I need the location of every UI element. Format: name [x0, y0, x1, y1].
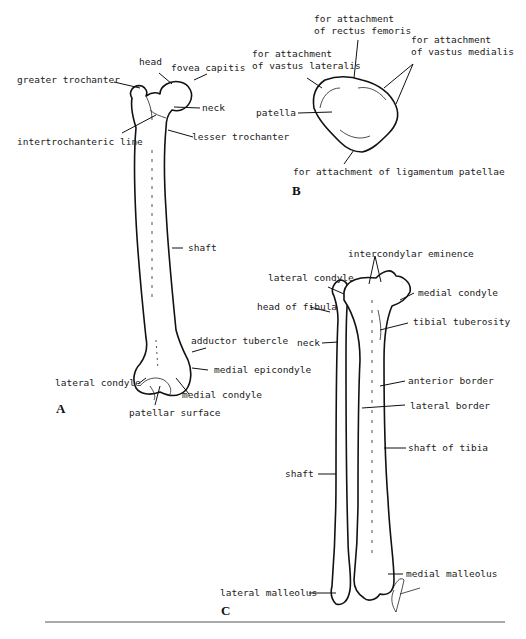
label-femur-lateral-condyle: lateral condyle	[55, 377, 141, 389]
label-attachment-vastus-lateralis: for attachment of vastus lateralis	[252, 48, 361, 72]
label-femur-shaft: shaft	[188, 242, 217, 254]
label-fibula-neck: neck	[297, 337, 320, 349]
label-lesser-trochanter: lesser trochanter	[192, 131, 289, 143]
femur-drawing	[131, 82, 192, 400]
label-attachment-rectus-femoris: for attachment of rectus femoris	[314, 13, 411, 37]
label-neck: neck	[202, 102, 225, 114]
label-tibia-lateral-condyle: lateral condyle	[268, 272, 354, 284]
label-head-of-fibula: head of fibula	[257, 301, 337, 313]
label-fibula-shaft: shaft	[285, 468, 314, 480]
label-intercondylar-eminence: intercondylar eminence	[348, 248, 474, 260]
label-tibial-tuberosity: tibial tuberosity	[413, 316, 510, 328]
panel-label-b: B	[292, 183, 301, 199]
label-adductor-tubercle: adductor tubercle	[191, 335, 288, 347]
label-anterior-border: anterior border	[408, 375, 494, 387]
label-medial-epicondyle: medial epicondyle	[214, 364, 311, 376]
label-attachment-vastus-medialis: for attachment of vastus medialis	[411, 34, 514, 58]
anatomy-figure: head fovea capitis greater trochanter ne…	[0, 0, 526, 639]
label-lateral-malleolus: lateral malleolus	[220, 587, 317, 599]
label-tibia-medial-condyle: medial condyle	[418, 287, 498, 299]
label-fovea-capitis: fovea capitis	[171, 62, 245, 74]
label-medial-malleolus: medial malleolus	[406, 568, 498, 580]
label-greater-trochanter: greater trochanter	[17, 74, 120, 86]
tibia-fibula-drawing	[331, 271, 410, 605]
label-shaft-of-tibia: shaft of tibia	[408, 442, 488, 454]
label-head: head	[139, 56, 162, 68]
patella-drawing	[313, 77, 397, 152]
label-attachment-ligamentum-patellae: for attachment of ligamentum patellae	[293, 166, 505, 178]
label-patella: patella	[256, 107, 296, 119]
label-femur-medial-condyle: medial condyle	[182, 389, 262, 401]
artist-signature	[392, 579, 420, 612]
label-patellar-surface: patellar surface	[129, 407, 221, 419]
panel-label-c: C	[221, 603, 230, 619]
label-intertrochanteric-line: intertrochanteric line	[17, 136, 143, 148]
panel-label-a: A	[56, 401, 65, 417]
label-lateral-border: lateral border	[410, 400, 490, 412]
